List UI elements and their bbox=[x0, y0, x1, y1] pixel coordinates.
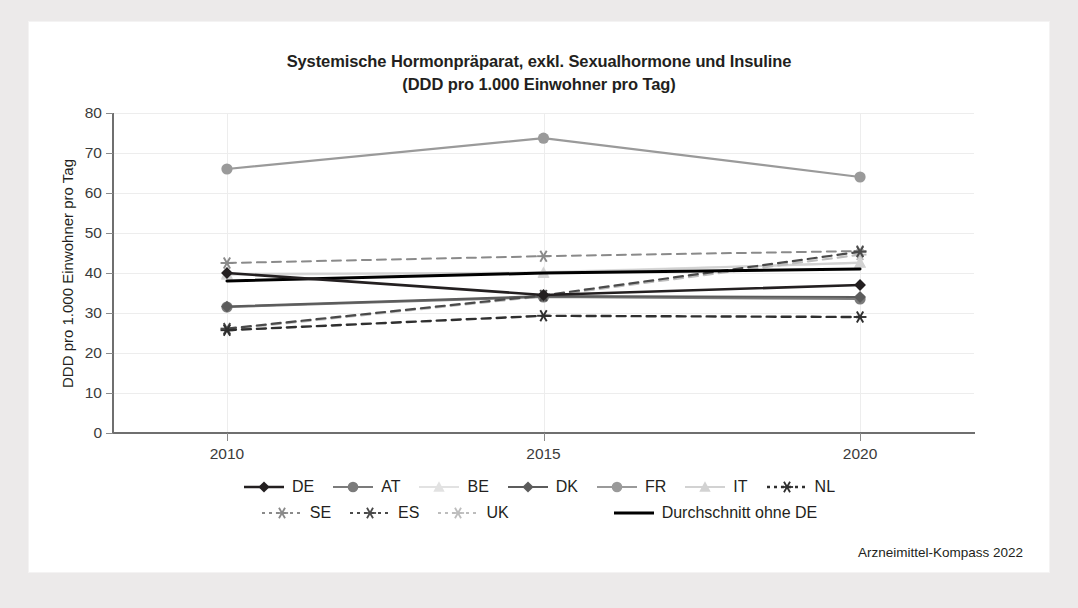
legend-swatch-it bbox=[684, 479, 726, 495]
legend-swatch-nl bbox=[766, 479, 808, 495]
legend-swatch-es bbox=[349, 505, 391, 521]
x-tick-label-2010: 2010 bbox=[210, 446, 244, 462]
data-point-marker bbox=[854, 171, 865, 182]
legend-item-label: FR bbox=[645, 478, 666, 496]
legend-item-at[interactable]: AT bbox=[332, 478, 418, 496]
data-point-marker bbox=[537, 310, 550, 321]
y-tick-mark bbox=[106, 113, 113, 114]
y-tick-mark bbox=[106, 353, 113, 354]
y-tick-mark bbox=[106, 153, 113, 154]
x-tick-mark bbox=[860, 433, 861, 441]
data-point-marker bbox=[221, 257, 234, 268]
y-tick-mark bbox=[106, 393, 113, 394]
legend-item-nl[interactable]: NL bbox=[766, 478, 835, 496]
chart-title: Systemische Hormonpräparat, exkl. Sexual… bbox=[29, 50, 1049, 96]
legend-item-label: ES bbox=[398, 504, 419, 522]
x-tick-mark bbox=[544, 433, 545, 441]
y-tick-label-60: 60 bbox=[85, 185, 102, 201]
y-tick-label-10: 10 bbox=[85, 385, 102, 401]
legend-swatch-de bbox=[243, 479, 285, 495]
series-nl bbox=[221, 310, 867, 335]
series-fr bbox=[221, 133, 865, 183]
y-tick-mark bbox=[106, 233, 113, 234]
legend-swatch-durchschnitt-ohne-de bbox=[613, 505, 655, 521]
source-attribution: Arzneimittel-Kompass 2022 bbox=[858, 545, 1023, 560]
y-tick-mark bbox=[106, 193, 113, 194]
legend-item-durchschnitt-ohne-de[interactable]: Durchschnitt ohne DE bbox=[613, 504, 818, 522]
legend-item-label: AT bbox=[381, 478, 400, 496]
legend-row: SEESUKDurchschnitt ohne DE bbox=[29, 500, 1049, 526]
y-tick-mark bbox=[106, 433, 113, 434]
data-point-marker bbox=[854, 311, 867, 322]
legend-item-label: Durchschnitt ohne DE bbox=[662, 504, 818, 522]
y-tick-label-20: 20 bbox=[85, 345, 102, 361]
y-tick-label-30: 30 bbox=[85, 305, 102, 321]
y-tick-label-50: 50 bbox=[85, 225, 102, 241]
x-tick-mark bbox=[227, 433, 228, 441]
y-tick-label-40: 40 bbox=[85, 265, 102, 281]
data-point-marker bbox=[854, 279, 866, 291]
x-tick-label-2020: 2020 bbox=[843, 446, 877, 462]
y-tick-mark bbox=[106, 313, 113, 314]
legend-swatch-fr bbox=[596, 479, 638, 495]
series-line bbox=[227, 138, 860, 177]
y-tick-label-70: 70 bbox=[85, 145, 102, 161]
chart-figure: Systemische Hormonpräparat, exkl. Sexual… bbox=[28, 21, 1050, 573]
legend-item-label: IT bbox=[733, 478, 747, 496]
chart-title-line-1: Systemische Hormonpräparat, exkl. Sexual… bbox=[29, 50, 1049, 73]
legend-swatch-uk bbox=[437, 505, 479, 521]
data-series-layer bbox=[113, 113, 974, 433]
legend-item-label: DE bbox=[292, 478, 314, 496]
y-tick-label-80: 80 bbox=[85, 105, 102, 121]
data-point-marker bbox=[221, 163, 232, 174]
y-tick-label-0: 0 bbox=[93, 425, 102, 441]
plot-area: 01020304050607080 201020152020 bbox=[113, 113, 974, 433]
legend-item-fr[interactable]: FR bbox=[596, 478, 684, 496]
legend-item-de[interactable]: DE bbox=[243, 478, 332, 496]
legend-item-label: DK bbox=[556, 478, 578, 496]
series-it bbox=[221, 257, 866, 279]
y-axis-label: DDD pro 1.000 Einwohner pro Tag bbox=[57, 113, 79, 433]
legend-item-label: NL bbox=[815, 478, 835, 496]
chart-title-line-2: (DDD pro 1.000 Einwohner pro Tag) bbox=[29, 73, 1049, 96]
data-point-marker bbox=[538, 133, 549, 144]
chart-legend: DEATBEDKFRITNL SEESUKDurchschnitt ohne D… bbox=[29, 474, 1049, 526]
legend-swatch-se bbox=[261, 505, 303, 521]
legend-swatch-be bbox=[418, 479, 460, 495]
data-point-marker bbox=[537, 251, 550, 262]
y-tick-mark bbox=[106, 273, 113, 274]
legend-item-es[interactable]: ES bbox=[349, 504, 437, 522]
y-axis-label-text: DDD pro 1.000 Einwohner pro Tag bbox=[60, 158, 77, 387]
legend-item-label: UK bbox=[486, 504, 508, 522]
x-tick-label-2015: 2015 bbox=[526, 446, 560, 462]
legend-item-label: SE bbox=[310, 504, 331, 522]
legend-item-label: BE bbox=[467, 478, 488, 496]
data-point-marker bbox=[221, 325, 234, 336]
legend-swatch-dk bbox=[507, 479, 549, 495]
legend-item-se[interactable]: SE bbox=[261, 504, 349, 522]
legend-item-dk[interactable]: DK bbox=[507, 478, 596, 496]
legend-item-be[interactable]: BE bbox=[418, 478, 506, 496]
legend-row: DEATBEDKFRITNL bbox=[29, 474, 1049, 500]
legend-item-uk[interactable]: UK bbox=[437, 504, 526, 522]
legend-item-it[interactable]: IT bbox=[684, 478, 765, 496]
legend-swatch-at bbox=[332, 479, 374, 495]
